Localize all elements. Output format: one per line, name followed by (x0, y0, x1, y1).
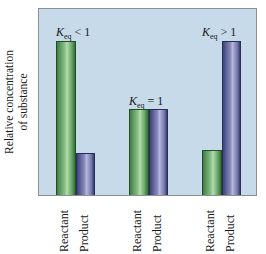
k-symbol: K (129, 94, 137, 108)
bar-keq-gt1-product (222, 41, 241, 195)
x-label-product-3: Product (224, 215, 237, 252)
x-label-reactant-2: Reactant (131, 210, 144, 252)
eq-subscript: eq (64, 32, 72, 41)
k-symbol: K (202, 25, 210, 39)
relation-text: > 1 (218, 25, 237, 39)
eq-subscript: eq (210, 32, 218, 41)
plot-area: Keq < 1 Keq = 1 Keq > 1 (38, 8, 257, 196)
x-label-reactant-3: Reactant (204, 210, 217, 252)
bar-keq-lt1-reactant (56, 41, 76, 195)
bar-keq-lt1-product (76, 153, 95, 195)
y-axis-label: Relative concentration of substance (2, 8, 38, 196)
bar-keq-eq1-product (149, 109, 168, 195)
x-label-reactant-1: Reactant (58, 210, 71, 252)
y-axis-label-line-2: of substance (16, 8, 30, 196)
relation-text: = 1 (145, 94, 164, 108)
x-label-product-1: Product (78, 215, 91, 252)
k-symbol: K (56, 25, 64, 39)
x-label-product-2: Product (151, 215, 164, 252)
relation-text: < 1 (72, 25, 91, 39)
bar-keq-gt1-reactant (202, 150, 222, 195)
y-axis-label-line-1: Relative concentration (2, 8, 16, 196)
bar-keq-eq1-reactant (129, 109, 149, 195)
